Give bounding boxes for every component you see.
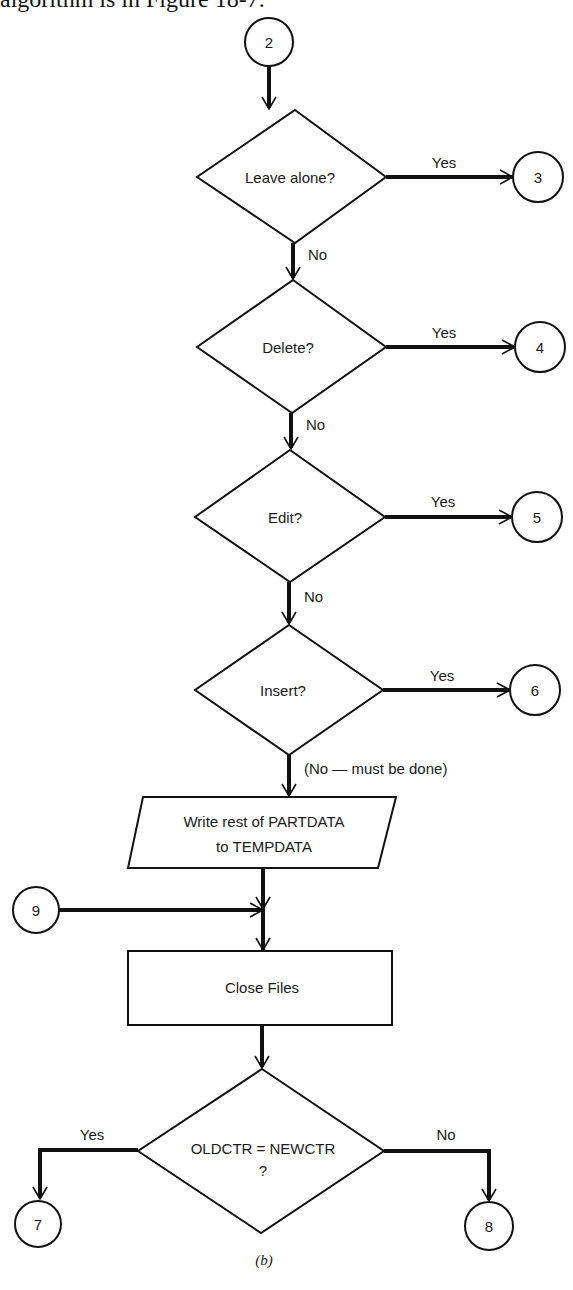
decision-leave-alone[interactable]: Leave alone? <box>197 110 386 243</box>
arrow-9-to-merge <box>59 903 263 917</box>
connector-2-label: 2 <box>265 34 273 51</box>
arrow-leave-alone-no: No <box>286 243 327 279</box>
connector-9[interactable]: 9 <box>13 887 59 933</box>
connector-6[interactable]: 6 <box>510 665 560 715</box>
connector-4[interactable]: 4 <box>515 322 565 372</box>
arrow-edit-yes: Yes <box>385 493 512 524</box>
yes-label: Yes <box>431 493 455 510</box>
io-write-partdata[interactable]: Write rest of PARTDATA to TEMPDATA <box>128 797 396 868</box>
decision-edit[interactable]: Edit? <box>195 450 385 582</box>
flowchart: 2 Leave alone? Yes 3 No Delete? Yes 4 <box>0 0 573 1290</box>
connector-6-label: 6 <box>531 682 539 699</box>
decision-compare-line1: OLDCTR = NEWCTR <box>191 1140 336 1157</box>
yes-label: Yes <box>432 154 456 171</box>
arrow-delete-yes: Yes <box>386 324 515 354</box>
no-must-be-done-label: (No — must be done) <box>304 760 447 777</box>
decision-insert-label: Insert? <box>260 682 306 699</box>
connector-4-label: 4 <box>536 339 544 356</box>
process-close-files[interactable]: Close Files <box>128 951 392 1025</box>
arrow-2-to-leave-alone <box>262 66 276 109</box>
connector-2[interactable]: 2 <box>245 18 293 66</box>
connector-7[interactable]: 7 <box>15 1201 61 1247</box>
decision-leave-alone-label: Leave alone? <box>245 169 335 186</box>
decision-insert[interactable]: Insert? <box>195 625 383 755</box>
decision-oldctr-equals-newctr[interactable]: OLDCTR = NEWCTR ? <box>138 1069 384 1233</box>
yes-label: Yes <box>432 324 456 341</box>
connector-3-label: 3 <box>534 169 542 186</box>
connector-5-label: 5 <box>533 509 541 526</box>
process-close-files-label: Close Files <box>225 979 299 996</box>
arrow-delete-no: No <box>284 413 325 449</box>
no-label: No <box>308 246 327 263</box>
connector-8[interactable]: 8 <box>465 1202 513 1250</box>
arrow-close-to-compare <box>255 1025 269 1068</box>
no-label: No <box>436 1126 455 1143</box>
arrow-compare-no: No <box>384 1126 496 1201</box>
arrow-insert-no: (No — must be done) <box>282 755 447 796</box>
connector-3[interactable]: 3 <box>513 152 563 202</box>
figure-caption: (b) <box>255 1252 273 1269</box>
arrow-compare-yes: Yes <box>33 1126 138 1199</box>
decision-delete-label: Delete? <box>262 339 314 356</box>
arrow-edit-no: No <box>282 582 323 624</box>
yes-label: Yes <box>80 1126 104 1143</box>
arrow-insert-yes: Yes <box>383 667 510 697</box>
io-write-line1: Write rest of PARTDATA <box>183 813 344 830</box>
no-label: No <box>304 588 323 605</box>
connector-5[interactable]: 5 <box>512 492 562 542</box>
decision-edit-label: Edit? <box>268 509 302 526</box>
no-label: No <box>306 416 325 433</box>
arrow-leave-alone-yes: Yes <box>386 154 513 184</box>
connector-9-label: 9 <box>32 902 40 919</box>
yes-label: Yes <box>430 667 454 684</box>
decision-compare-line2: ? <box>259 1162 267 1179</box>
connector-7-label: 7 <box>34 1216 42 1233</box>
connector-8-label: 8 <box>485 1218 493 1235</box>
io-write-line2: to TEMPDATA <box>216 838 312 855</box>
decision-delete[interactable]: Delete? <box>197 280 386 413</box>
